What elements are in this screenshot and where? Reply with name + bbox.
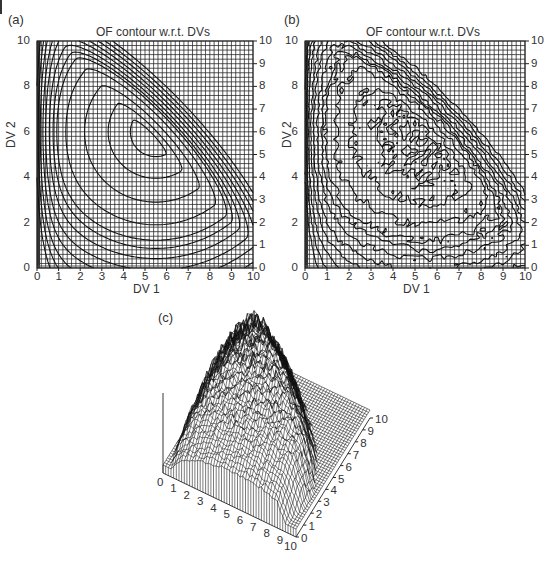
- y-tick-right: 0: [531, 262, 537, 274]
- y-tick-right: 8: [259, 80, 265, 92]
- y-tick-3d: 2: [316, 509, 322, 521]
- y-tick-right: 9: [259, 58, 265, 70]
- x-axis-label-a: DV 1: [133, 282, 160, 296]
- y-tick-3d: 0: [301, 533, 307, 545]
- y-tick-right: 2: [531, 217, 537, 229]
- x-tick: 10: [247, 271, 260, 283]
- y-tick-right: 4: [259, 171, 265, 183]
- x-tick: 7: [456, 271, 462, 283]
- x-tick: 4: [120, 271, 126, 283]
- x-tick: 9: [228, 271, 234, 283]
- y-tick-3d: 10: [375, 414, 388, 426]
- plot-title-a: OF contour w.r.t. DVs: [96, 25, 210, 39]
- y-tick-right: 3: [531, 194, 537, 206]
- x-tick-3d: 9: [277, 535, 283, 547]
- y-tick-left: 2: [24, 217, 30, 229]
- contour-plot-a: [37, 41, 257, 271]
- y-tick-3d: 1: [308, 521, 314, 533]
- y-tick-right: 1: [531, 239, 537, 251]
- y-tick-left: 4: [292, 171, 298, 183]
- y-tick-right: 10: [531, 35, 544, 47]
- x-tick: 1: [324, 271, 330, 283]
- y-tick-left: 2: [292, 217, 298, 229]
- x-tick: 10: [519, 271, 532, 283]
- x-tick-3d: 7: [250, 522, 256, 534]
- y-tick-left: 4: [24, 171, 30, 183]
- x-tick: 0: [34, 271, 40, 283]
- y-tick-left: 0: [24, 262, 30, 274]
- y-tick-right: 3: [259, 194, 265, 206]
- x-tick: 5: [412, 271, 418, 283]
- y-tick-right: 1: [259, 239, 265, 251]
- panel-label-b: (b): [284, 12, 300, 27]
- y-tick-left: 0: [292, 262, 298, 274]
- y-tick-3d: 9: [368, 426, 374, 438]
- plot-title-b: OF contour w.r.t. DVs: [366, 25, 480, 39]
- y-tick-right: 8: [531, 80, 537, 92]
- x-tick: 6: [164, 271, 170, 283]
- x-tick-3d: 4: [210, 503, 216, 515]
- x-tick: 2: [346, 271, 352, 283]
- panel-label-c: (c): [158, 310, 173, 325]
- x-tick: 7: [185, 271, 191, 283]
- contour-plot-b: [305, 41, 529, 271]
- x-tick-3d: 1: [170, 483, 176, 495]
- y-tick-3d: 5: [338, 474, 344, 486]
- x-axis-label-b: DV 1: [403, 282, 430, 296]
- x-tick-3d: 3: [197, 496, 203, 508]
- y-tick-3d: 7: [353, 450, 359, 462]
- figure-canvas: [0, 0, 557, 568]
- y-tick-right: 7: [259, 103, 265, 115]
- y-axis-label-a: DV 2: [4, 121, 18, 148]
- x-tick: 2: [77, 271, 83, 283]
- x-tick-3d: 0: [157, 477, 163, 489]
- x-tick-3d: 8: [263, 528, 269, 540]
- x-tick: 9: [500, 271, 506, 283]
- y-tick-3d: 4: [331, 485, 337, 497]
- x-tick-3d: 5: [224, 509, 230, 521]
- y-tick-right: 0: [259, 262, 265, 274]
- y-tick-3d: 8: [360, 438, 366, 450]
- x-tick: 4: [390, 271, 396, 283]
- y-tick-right: 6: [259, 126, 265, 138]
- x-tick: 8: [478, 271, 484, 283]
- y-tick-right: 5: [531, 149, 537, 161]
- y-tick-right: 5: [259, 149, 265, 161]
- y-tick-left: 6: [292, 126, 298, 138]
- x-tick: 3: [99, 271, 105, 283]
- x-tick: 3: [368, 271, 374, 283]
- y-tick-left: 10: [285, 35, 298, 47]
- x-tick: 0: [302, 271, 308, 283]
- y-tick-right: 7: [531, 103, 537, 115]
- y-tick-left: 10: [17, 35, 30, 47]
- y-tick-left: 8: [292, 80, 298, 92]
- surface-plot-c: [163, 311, 373, 537]
- y-tick-right: 6: [531, 126, 537, 138]
- x-tick: 5: [142, 271, 148, 283]
- x-tick: 6: [434, 271, 440, 283]
- y-tick-right: 9: [531, 58, 537, 70]
- x-tick-3d: 2: [184, 490, 190, 502]
- y-tick-left: 8: [24, 80, 30, 92]
- x-tick-3d: 6: [237, 515, 243, 527]
- x-tick-3d: 10: [284, 541, 297, 553]
- y-tick-3d: 6: [345, 462, 351, 474]
- y-tick-right: 4: [531, 171, 537, 183]
- panel-label-a: (a): [8, 12, 24, 27]
- y-tick-right: 2: [259, 217, 265, 229]
- y-tick-right: 10: [259, 35, 272, 47]
- y-tick-left: 6: [24, 126, 30, 138]
- y-tick-3d: 3: [323, 497, 329, 509]
- x-tick: 1: [56, 271, 62, 283]
- x-tick: 8: [207, 271, 213, 283]
